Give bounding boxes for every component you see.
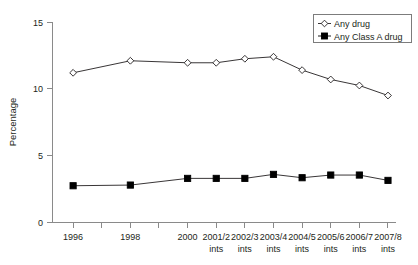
x-tick-label: 2004/5 (288, 232, 316, 242)
data-point-filled-square (70, 183, 76, 189)
data-point-open-diamond (241, 55, 248, 62)
y-axis-ticks: 15 10 5 0 (33, 18, 53, 228)
series-layer (70, 53, 392, 188)
legend-label-any-drug: Any drug (334, 19, 370, 29)
y-tick-label-10: 10 (33, 84, 43, 94)
x-tick-label-sub: ints (324, 244, 339, 254)
x-tick-label-sub: ints (381, 244, 396, 254)
x-tick-label: 2002/3 (231, 232, 259, 242)
data-point-filled-square (356, 172, 362, 178)
x-axis-ticks: 1996199820002001/2ints2002/3ints2003/4in… (63, 223, 402, 254)
x-tick-label: 2000 (178, 232, 198, 242)
data-point-filled-square (328, 172, 334, 178)
x-tick-label-sub: ints (209, 244, 224, 254)
x-tick-label: 1998 (120, 232, 140, 242)
x-tick-label-sub: ints (352, 244, 367, 254)
x-tick-label-sub: ints (295, 244, 310, 254)
chart-legend: Any drug Any Class A drug (314, 15, 412, 43)
data-point-filled-square (270, 171, 276, 177)
x-tick-label: 2003/4 (260, 232, 288, 242)
data-point-open-diamond (299, 67, 306, 74)
y-tick-label-15: 15 (33, 18, 43, 28)
data-point-filled-square (242, 175, 248, 181)
data-point-open-diamond (184, 59, 191, 66)
data-point-filled-square (127, 182, 133, 188)
legend-label-class-a: Any Class A drug (334, 32, 403, 42)
x-tick-label-sub: ints (238, 244, 253, 254)
data-point-filled-square (299, 175, 305, 181)
data-point-open-diamond (327, 76, 334, 83)
data-point-open-diamond (270, 53, 277, 60)
series-any-drug (70, 53, 392, 99)
x-tick-label: 2001/2 (202, 232, 230, 242)
data-point-filled-square (213, 175, 219, 181)
series-path (73, 57, 388, 96)
data-point-open-diamond (385, 92, 392, 99)
data-point-filled-square (385, 177, 391, 183)
series-any-class-a-drug (70, 171, 391, 189)
x-tick-label: 1996 (63, 232, 83, 242)
chart-svg: 15 10 5 0 Percentage 1996199820002001/2i… (0, 0, 418, 265)
filled-square-icon (322, 33, 328, 39)
data-point-open-diamond (70, 69, 77, 76)
x-tick-label: 2006/7 (346, 232, 374, 242)
data-point-open-diamond (127, 57, 134, 64)
x-tick-label-sub: ints (266, 244, 281, 254)
y-axis-title: Percentage (7, 98, 18, 147)
x-tick-label: 2005/6 (317, 232, 345, 242)
data-point-open-diamond (356, 82, 363, 89)
series-path (73, 174, 388, 185)
data-point-open-diamond (213, 59, 220, 66)
line-chart: 15 10 5 0 Percentage 1996199820002001/2i… (0, 0, 418, 265)
data-point-filled-square (185, 175, 191, 181)
y-tick-label-0: 0 (38, 218, 43, 228)
x-tick-label: 2007/8 (374, 232, 402, 242)
y-tick-label-5: 5 (38, 151, 43, 161)
